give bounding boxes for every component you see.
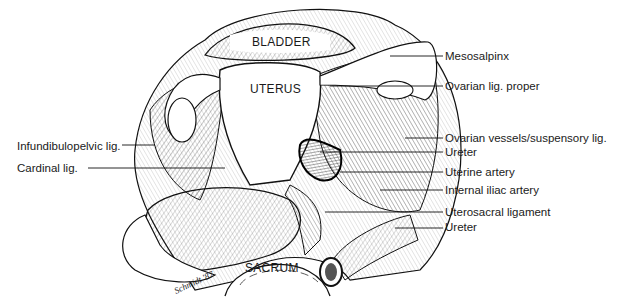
pelvic-anatomy-illustration: Schmidt '87 BLADDER UTERUS SACRUM Infund… (0, 0, 622, 304)
label-internal-iliac-artery: Internal iliac artery (445, 184, 539, 196)
label-uterine-artery: Uterine artery (445, 166, 515, 178)
label-cardinal-lig: Cardinal lig. (17, 162, 78, 174)
right-ovary (377, 81, 413, 99)
left-ovary (168, 98, 196, 142)
anatomy-drawing: Schmidt '87 (0, 0, 622, 304)
bladder-label: BLADDER (252, 35, 311, 49)
label-infundibulopelvic-lig: Infundibulopelvic lig. (17, 140, 121, 152)
label-ovarian-lig-proper: Ovarian lig. proper (445, 80, 540, 92)
sacrum-label: SACRUM (245, 261, 299, 275)
label-ureter-upper: Ureter (445, 146, 477, 158)
label-ovarian-vessels: Ovarian vessels/suspensory lig. (445, 132, 607, 144)
label-ureter-lower: Ureter (445, 221, 477, 233)
label-uterosacral-ligament: Uterosacral ligament (445, 206, 550, 218)
uterus-label: UTERUS (250, 82, 301, 96)
label-mesosalpinx: Mesosalpinx (445, 50, 509, 62)
